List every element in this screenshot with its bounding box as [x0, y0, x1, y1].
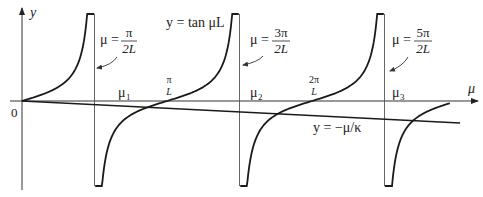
root-subscript: 1: [126, 92, 131, 102]
pointer-arrow: [97, 57, 117, 68]
asymptote-mu-eq: μ =: [392, 32, 411, 47]
tick-denominator: L: [310, 86, 317, 97]
tick-denominator: L: [165, 86, 172, 97]
tan-branch-4: [385, 103, 450, 186]
root-mu: μ: [392, 85, 400, 100]
root-subscript: 2: [258, 92, 263, 102]
root-label-3: μ 3: [392, 85, 405, 102]
mu-axis-label: μ: [467, 81, 475, 96]
asymptote-numerator: 5π: [416, 25, 430, 40]
tick-pi-over-L: π L: [165, 74, 172, 97]
tan-root-diagram: y μ 0 y = −μ/κ y = tan μL μ = π 2L μ = 3…: [0, 0, 483, 197]
line-label: y = −μ/κ: [313, 120, 361, 135]
pointer-arrow: [243, 56, 263, 65]
asymptote-denominator: 2L: [122, 41, 136, 56]
asymptote-label-2: μ = 3π 2L: [243, 25, 290, 65]
asymptote-denominator: 2L: [416, 41, 430, 56]
asymptote-label-3: μ = 5π 2L: [390, 25, 432, 71]
asymptote-mu-eq: μ =: [100, 32, 119, 47]
tick-numerator: π: [166, 74, 171, 85]
tick-2pi-over-L: 2π L: [309, 74, 319, 97]
asymptote-label-1: μ = π 2L: [97, 25, 137, 68]
tick-numerator: 2π: [309, 74, 319, 85]
origin-label: 0: [11, 105, 18, 120]
root-label-2: μ 2: [250, 85, 263, 102]
asymptote-denominator: 2L: [274, 41, 288, 56]
asymptote-numerator: π: [126, 25, 133, 40]
asymptote-mu-eq: μ =: [250, 32, 269, 47]
root-mu: μ: [118, 85, 126, 100]
line-neg-mu-over-kappa: [22, 101, 460, 123]
tan-branch-1: [22, 14, 94, 101]
asymptote-numerator: 3π: [274, 25, 288, 40]
root-subscript: 3: [400, 92, 405, 102]
y-axis-label: y: [28, 5, 37, 20]
tan-label: y = tan μL: [166, 15, 225, 30]
pointer-arrow: [390, 57, 408, 71]
root-mu: μ: [250, 85, 258, 100]
root-label-1: μ 1: [118, 85, 131, 102]
